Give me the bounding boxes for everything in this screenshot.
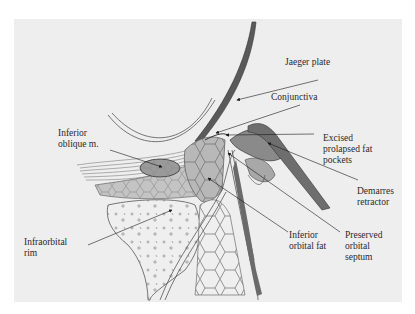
label-demarres-retractor: Demarres retractor — [357, 186, 394, 208]
label-excised-fat: Excised prolapsed fat pockets — [323, 133, 372, 166]
jaeger-plate-shape — [195, 22, 256, 143]
label-jaeger-plate: Jaeger plate — [285, 57, 330, 68]
label-conjunctiva: Conjunctiva — [271, 92, 317, 103]
label-infraorbital-rim: Infraorbital rim — [24, 237, 67, 259]
label-preserved-septum: Preserved orbital septum — [345, 230, 382, 263]
label-inferior-oblique: Inferior oblique m. — [58, 128, 99, 150]
label-inferior-orbital-fat: Inferior orbital fat — [289, 230, 326, 252]
